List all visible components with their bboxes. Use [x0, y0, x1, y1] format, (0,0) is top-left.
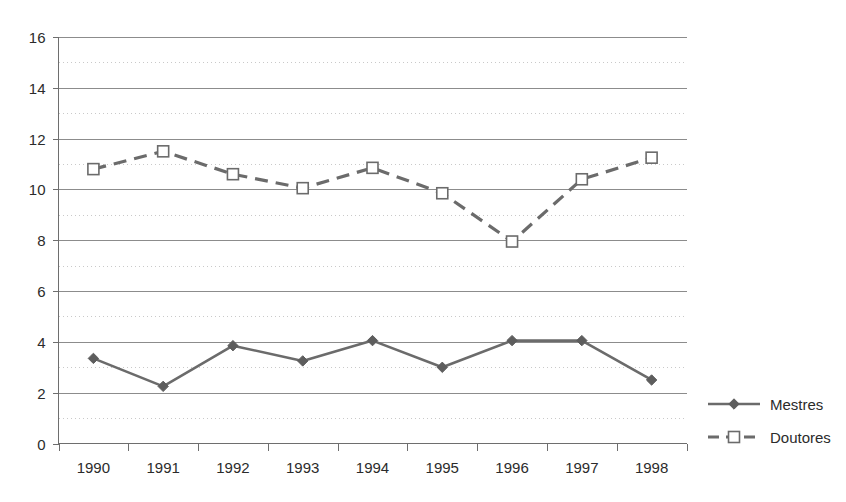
- series-mestres: [88, 335, 657, 391]
- y-axis-tick-label: 0: [37, 436, 45, 453]
- doutores-data-point: [367, 162, 378, 173]
- y-axis-tick-label: 10: [29, 181, 46, 198]
- legend-label-mestres: Mestres: [770, 396, 823, 413]
- line-chart: 0246810121416 19901991199219931994199519…: [0, 0, 846, 502]
- x-axis-tick-label: 1990: [77, 459, 110, 476]
- series-doutores: [88, 146, 657, 247]
- doutores-data-point: [507, 236, 518, 247]
- x-axis-tick-labels: 199019911992199319941995199619971998: [77, 459, 669, 476]
- mestres-data-point: [88, 353, 98, 363]
- x-axis-tick-marks: [60, 444, 688, 451]
- x-axis-tick-label: 1991: [146, 459, 179, 476]
- y-axis-tick-label: 4: [37, 334, 45, 351]
- doutores-data-point: [437, 188, 448, 199]
- chart-container: 0246810121416 19901991199219931994199519…: [0, 0, 846, 502]
- y-axis-tick-label: 2: [37, 385, 45, 402]
- y-axis-tick-marks: [53, 38, 59, 445]
- x-axis-tick-label: 1993: [286, 459, 319, 476]
- y-axis-tick-label: 8: [37, 232, 45, 249]
- x-axis-tick-label: 1996: [495, 459, 528, 476]
- mestres-data-point: [577, 335, 587, 345]
- doutores-data-point: [576, 174, 587, 185]
- doutores-data-point: [158, 146, 169, 157]
- y-axis-tick-label: 14: [29, 80, 46, 97]
- mestres-data-point: [646, 375, 656, 385]
- y-axis-tick-label: 16: [29, 29, 46, 46]
- mestres-data-point: [298, 356, 308, 366]
- mestres-data-point: [367, 335, 377, 345]
- legend: MestresDoutores: [708, 396, 831, 446]
- x-axis-tick-label: 1998: [635, 459, 668, 476]
- y-axis-tick-label: 12: [29, 131, 46, 148]
- doutores-data-point: [646, 152, 657, 163]
- doutores-data-point: [88, 164, 99, 175]
- y-axis-tick-labels: 0246810121416: [29, 29, 46, 453]
- x-axis-tick-label: 1997: [565, 459, 598, 476]
- x-axis-tick-label: 1992: [216, 459, 249, 476]
- mestres-data-point: [158, 381, 168, 391]
- mestres-line: [93, 341, 651, 387]
- mestres-data-point: [437, 362, 447, 372]
- doutores-data-point: [227, 169, 238, 180]
- doutores-data-point: [297, 183, 308, 194]
- x-axis-tick-label: 1994: [356, 459, 389, 476]
- y-axis-tick-label: 6: [37, 283, 45, 300]
- mestres-data-point: [507, 335, 517, 345]
- x-axis-tick-label: 1995: [426, 459, 459, 476]
- legend-marker-diamond-icon: [729, 399, 739, 409]
- legend-label-doutores: Doutores: [770, 429, 831, 446]
- legend-marker-square-icon: [729, 432, 740, 443]
